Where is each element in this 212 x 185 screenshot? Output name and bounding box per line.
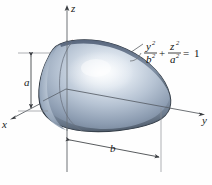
- surface-equation: y 2 b 2 + z 2 a 2 = 1: [144, 39, 200, 65]
- eq-right-side: 1: [194, 47, 200, 59]
- eq-plus-sign: +: [159, 47, 165, 59]
- eq-numerator-1: y: [145, 40, 151, 52]
- eq-numerator-2-sup: 2: [176, 39, 180, 46]
- figure-canvas: z x y a b y 2 b 2: [0, 0, 212, 185]
- eq-equals-sign: =: [183, 47, 189, 59]
- dim-b-label: b: [110, 142, 116, 154]
- dim-a-label: a: [24, 76, 30, 88]
- eq-numerator-1-sup: 2: [152, 39, 156, 46]
- ellipsoid-figure: z x y a b y 2 b 2: [0, 0, 212, 185]
- y-axis-label: y: [201, 114, 207, 126]
- z-axis-label: z: [70, 2, 76, 14]
- x-axis-label: x: [1, 118, 7, 130]
- solid-specular-core: [81, 59, 111, 77]
- eq-numerator-2: z: [169, 40, 175, 52]
